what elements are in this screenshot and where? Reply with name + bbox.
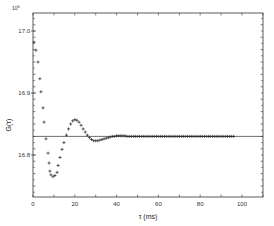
plus-marker xyxy=(109,136,112,139)
x-tick-label: 100 xyxy=(237,201,248,207)
plus-marker xyxy=(98,139,101,142)
y-tick-label: 16.8 xyxy=(18,152,30,158)
plus-marker xyxy=(105,137,108,140)
plus-marker xyxy=(113,135,116,138)
plus-marker xyxy=(103,137,106,140)
y-axis-label: G(τ) xyxy=(5,119,13,132)
plot-frame xyxy=(33,13,263,197)
x-axis-label: τ (ms) xyxy=(139,213,158,221)
plus-marker xyxy=(42,106,45,109)
plus-marker xyxy=(100,138,103,141)
x-tick-label: 60 xyxy=(155,201,162,207)
plus-marker xyxy=(44,137,47,140)
y-axis-ticks: 16.816.917.0 xyxy=(18,19,263,193)
plus-marker xyxy=(77,121,80,124)
plus-marker xyxy=(61,148,64,151)
axes-box xyxy=(33,13,263,197)
plus-marker xyxy=(48,170,51,173)
plus-marker xyxy=(96,139,99,142)
plus-marker xyxy=(80,124,83,127)
plus-marker xyxy=(57,164,60,167)
x-axis-ticks: 020406080100 xyxy=(31,13,263,207)
plus-marker xyxy=(84,131,87,134)
plus-marker xyxy=(47,152,50,155)
plus-marker xyxy=(43,121,46,124)
y-multiplier-exp: 6 xyxy=(18,4,21,9)
plus-marker xyxy=(232,135,235,138)
chart: 020406080100 16.816.917.0 τ (ms) G(τ) 10… xyxy=(0,0,274,226)
x-tick-label: 20 xyxy=(71,201,78,207)
y-tick-label: 16.9 xyxy=(18,90,30,96)
plus-marker xyxy=(82,127,85,130)
plus-marker xyxy=(62,141,65,144)
x-tick-label: 80 xyxy=(197,201,204,207)
plus-marker xyxy=(69,123,72,126)
plus-marker xyxy=(67,127,70,130)
x-tick-label: 40 xyxy=(113,201,120,207)
plus-marker xyxy=(49,173,52,176)
y-multiplier-label: 106 xyxy=(12,4,21,12)
plus-marker xyxy=(38,77,41,80)
data-series xyxy=(33,41,236,179)
plus-marker xyxy=(75,119,78,122)
x-tick-label: 0 xyxy=(31,201,35,207)
plus-marker xyxy=(34,49,37,52)
plus-marker xyxy=(58,156,61,159)
plus-marker xyxy=(37,61,40,64)
plus-marker xyxy=(123,134,126,137)
plus-marker xyxy=(56,171,59,174)
plus-marker xyxy=(39,90,42,93)
plus-marker xyxy=(48,162,51,165)
y-tick-label: 17.0 xyxy=(18,28,30,34)
